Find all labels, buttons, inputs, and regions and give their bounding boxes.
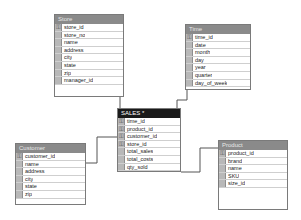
table-title[interactable]: Product xyxy=(219,141,287,150)
column-row[interactable]: manager_id xyxy=(55,77,123,85)
column-row[interactable]: day xyxy=(186,57,250,65)
row-selector[interactable] xyxy=(186,42,193,49)
column-row[interactable]: name xyxy=(16,161,85,169)
column-name: store_id xyxy=(62,24,84,31)
column-name: address xyxy=(23,168,45,175)
column-name: brand xyxy=(226,158,242,165)
column-name: state xyxy=(23,183,37,190)
primary-key-icon: ⚿ xyxy=(119,141,124,148)
row-selector[interactable] xyxy=(186,57,193,64)
row-selector[interactable] xyxy=(118,164,125,171)
row-selector[interactable] xyxy=(118,156,125,163)
row-selector[interactable] xyxy=(219,173,226,180)
row-selector[interactable] xyxy=(16,161,23,168)
row-selector[interactable] xyxy=(55,47,62,54)
row-selector[interactable] xyxy=(55,70,62,77)
column-row[interactable]: size_id xyxy=(219,180,287,188)
row-selector[interactable] xyxy=(16,168,23,175)
column-row[interactable]: zip xyxy=(55,70,123,78)
column-name: store_id xyxy=(125,141,147,148)
column-row[interactable]: state xyxy=(55,62,123,70)
column-row[interactable]: store_no xyxy=(55,32,123,40)
column-row[interactable]: quarter xyxy=(186,72,250,80)
column-name: name xyxy=(23,161,39,168)
row-selector[interactable] xyxy=(16,191,23,198)
row-selector[interactable] xyxy=(219,158,226,165)
column-name: day xyxy=(193,57,204,64)
table-title[interactable]: Customer xyxy=(16,144,85,153)
table-title[interactable]: SALES * xyxy=(118,109,180,118)
column-name: city xyxy=(23,176,33,183)
column-list: ⚿product_idbrandnameSKUsize_id xyxy=(219,150,287,188)
table-customer[interactable]: Customer ⚿customer_idnameaddresscitystat… xyxy=(15,143,86,205)
column-name: zip xyxy=(62,70,71,77)
column-row[interactable]: total_costs xyxy=(118,156,180,164)
primary-key-icon: ⚿ xyxy=(17,153,22,160)
column-name: total_costs xyxy=(125,156,153,163)
column-name: zip xyxy=(23,191,32,198)
column-row[interactable]: day_of_week xyxy=(186,80,250,88)
row-selector[interactable] xyxy=(55,32,62,39)
row-selector[interactable] xyxy=(55,39,62,46)
column-row[interactable]: ⚿customer_id xyxy=(16,153,85,161)
column-row[interactable]: name xyxy=(219,165,287,173)
row-selector[interactable] xyxy=(186,80,193,87)
column-name: time_id xyxy=(125,118,145,125)
row-selector[interactable] xyxy=(16,183,23,190)
table-sales[interactable]: SALES * ⚿time_id⚿product_id⚿customer_id⚿… xyxy=(117,108,181,172)
column-row[interactable]: date xyxy=(186,42,250,50)
row-selector[interactable] xyxy=(219,165,226,172)
column-row[interactable]: zip xyxy=(16,191,85,199)
row-selector[interactable]: ⚿ xyxy=(118,118,125,125)
column-name: year xyxy=(193,64,206,71)
column-row[interactable]: year xyxy=(186,64,250,72)
primary-key-icon: ⚿ xyxy=(119,133,124,140)
column-row[interactable]: state xyxy=(16,183,85,191)
row-selector[interactable] xyxy=(219,180,226,187)
column-row[interactable]: ⚿customer_id xyxy=(118,133,180,141)
column-row[interactable]: ⚿store_id xyxy=(118,141,180,149)
column-name: customer_id xyxy=(23,153,55,160)
row-selector[interactable] xyxy=(118,148,125,155)
column-row[interactable]: ⚿store_id xyxy=(55,24,123,32)
column-row[interactable]: address xyxy=(55,47,123,55)
row-selector[interactable]: ⚿ xyxy=(186,34,193,41)
row-selector[interactable]: ⚿ xyxy=(55,24,62,31)
column-row[interactable]: city xyxy=(16,176,85,184)
row-selector[interactable]: ⚿ xyxy=(118,133,125,140)
row-selector[interactable]: ⚿ xyxy=(219,150,226,157)
column-name: product_id xyxy=(125,126,153,133)
row-selector[interactable] xyxy=(55,77,62,84)
table-product[interactable]: Product ⚿product_idbrandnameSKUsize_id xyxy=(218,140,288,210)
primary-key-icon: ⚿ xyxy=(187,34,192,41)
row-selector[interactable]: ⚿ xyxy=(118,141,125,148)
column-row[interactable]: ⚿time_id xyxy=(118,118,180,126)
column-row[interactable]: month xyxy=(186,49,250,57)
column-name: address xyxy=(62,47,84,54)
column-row[interactable]: SKU xyxy=(219,173,287,181)
row-selector[interactable] xyxy=(186,64,193,71)
column-row[interactable]: address xyxy=(16,168,85,176)
row-selector[interactable] xyxy=(186,49,193,56)
column-name: time_id xyxy=(193,34,213,41)
row-selector[interactable] xyxy=(186,72,193,79)
primary-key-icon: ⚿ xyxy=(56,24,61,31)
row-selector[interactable] xyxy=(16,176,23,183)
row-selector[interactable]: ⚿ xyxy=(16,153,23,160)
column-row[interactable]: ⚿product_id xyxy=(118,126,180,134)
column-row[interactable]: brand xyxy=(219,158,287,166)
table-title[interactable]: Store xyxy=(55,15,123,24)
column-name: total_sales xyxy=(125,148,153,155)
row-selector[interactable]: ⚿ xyxy=(118,126,125,133)
column-row[interactable]: name xyxy=(55,39,123,47)
column-row[interactable]: qty_sold xyxy=(118,164,180,172)
column-row[interactable]: ⚿product_id xyxy=(219,150,287,158)
row-selector[interactable] xyxy=(55,62,62,69)
row-selector[interactable] xyxy=(55,54,62,61)
column-row[interactable]: city xyxy=(55,54,123,62)
column-row[interactable]: ⚿time_id xyxy=(186,34,250,42)
column-row[interactable]: total_sales xyxy=(118,148,180,156)
table-store[interactable]: Store ⚿store_idstore_nonameaddresscityst… xyxy=(54,14,124,97)
table-title[interactable]: Time xyxy=(186,25,250,34)
table-time[interactable]: Time ⚿time_iddatemonthdayyearquarterday_… xyxy=(185,24,251,90)
